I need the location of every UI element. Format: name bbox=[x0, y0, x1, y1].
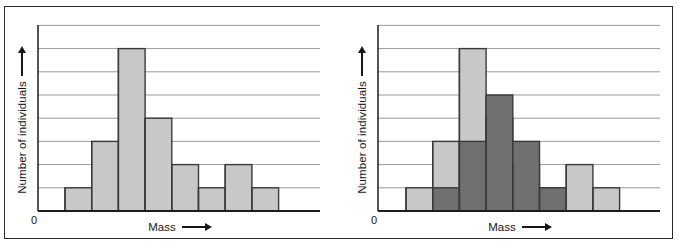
histogram-bar-subset bbox=[486, 95, 513, 211]
left-y-axis-label-text: Number of individuals bbox=[16, 81, 28, 194]
right-y-axis-label-text: Number of individuals bbox=[356, 81, 368, 194]
right-y-axis-label: Number of individuals bbox=[355, 35, 371, 205]
histogram-bar bbox=[118, 49, 145, 211]
left-x-axis-arrow-icon bbox=[182, 222, 212, 231]
left-x-axis-label-text: Mass bbox=[148, 221, 175, 233]
histogram-bar bbox=[145, 118, 172, 211]
left-bars bbox=[65, 49, 279, 211]
histogram-bar bbox=[406, 188, 433, 211]
left-y-axis-label: Number of individuals bbox=[15, 35, 31, 205]
histogram-bar-subset bbox=[459, 141, 486, 211]
histogram-bar bbox=[199, 188, 226, 211]
left-gridlines bbox=[38, 25, 320, 187]
right-x-axis-label-text: Mass bbox=[488, 221, 515, 233]
left-histogram-plot bbox=[0, 0, 339, 249]
panel-container: Number of individuals 0 Mass Number of i… bbox=[0, 0, 679, 249]
panel-left-histogram: Number of individuals 0 Mass bbox=[0, 0, 339, 249]
histogram-bar-subset bbox=[513, 141, 540, 211]
histogram-bar bbox=[172, 165, 199, 211]
histogram-bar-subset bbox=[433, 188, 460, 211]
histogram-bar bbox=[65, 188, 92, 211]
histogram-bar bbox=[92, 141, 119, 211]
left-origin-label: 0 bbox=[31, 214, 37, 226]
left-y-axis-arrow-icon bbox=[17, 46, 26, 76]
right-histogram-plot bbox=[340, 0, 679, 249]
histogram-bar bbox=[566, 165, 593, 211]
left-x-axis-label: Mass bbox=[90, 220, 270, 238]
histogram-bar bbox=[225, 165, 252, 211]
right-x-axis-arrow-icon bbox=[522, 222, 552, 231]
right-bars bbox=[406, 49, 620, 211]
figure-root: Number of individuals 0 Mass Number of i… bbox=[0, 0, 679, 249]
histogram-bar bbox=[252, 188, 279, 211]
right-y-axis-arrow-icon bbox=[357, 46, 366, 76]
histogram-bar-subset bbox=[540, 188, 567, 211]
panel-right-histogram: Number of individuals 0 Mass bbox=[340, 0, 679, 249]
right-origin-label: 0 bbox=[371, 214, 377, 226]
right-x-axis-label: Mass bbox=[430, 220, 610, 238]
histogram-bar bbox=[593, 188, 620, 211]
